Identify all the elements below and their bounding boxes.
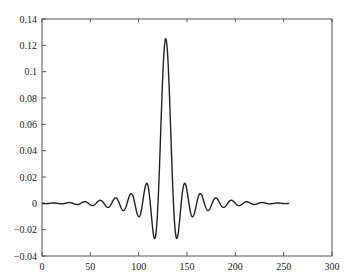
x-tick-label: 100 <box>131 261 146 272</box>
y-tick-label: 0.02 <box>20 172 38 183</box>
y-tick-label: −0.04 <box>14 251 37 262</box>
y-tick-label: 0 <box>32 198 37 209</box>
y-tick-label: 0.08 <box>20 93 38 104</box>
line-chart: −0.04−0.0200.020.040.060.080.10.120.14 0… <box>0 0 349 280</box>
x-tick-label: 150 <box>180 261 195 272</box>
y-tick-label: 0.14 <box>20 14 38 25</box>
x-tick-label: 50 <box>85 261 95 272</box>
x-tick-label: 0 <box>40 261 45 272</box>
x-tick-label: 300 <box>325 261 340 272</box>
y-tick-label: 0.06 <box>20 119 38 130</box>
x-tick-label: 200 <box>228 261 243 272</box>
y-tick-label: 0.12 <box>20 40 38 51</box>
plot-area <box>42 19 332 256</box>
y-tick-label: 0.1 <box>25 66 38 77</box>
y-tick-label: −0.02 <box>14 224 37 235</box>
y-tick-label: 0.04 <box>20 145 38 156</box>
y-axis: −0.04−0.0200.020.040.060.080.10.120.14 <box>14 14 46 262</box>
x-tick-label: 250 <box>276 261 291 272</box>
